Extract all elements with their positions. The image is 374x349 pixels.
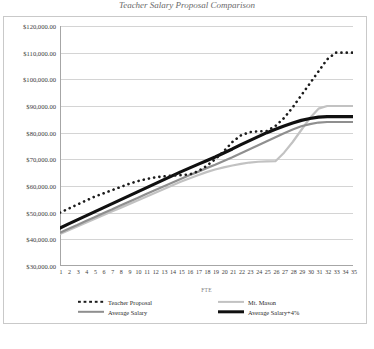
x-axis-tick-label: 4 [85,269,88,275]
y-axis-tick-label: $30,000.00 [26,263,56,270]
x-axis-tick-label: 9 [128,269,131,275]
legend-item-average-salary: Average Salary [78,308,147,316]
chart-frame: $30,000.00$40,000.00$50,000.00$60,000.00… [3,16,367,324]
x-axis-tick-label: 35 [351,269,357,275]
legend-label: Mt. Mason [248,299,276,306]
legend-item-average-salary-plus-4: Average Salary+4% [218,308,299,316]
x-axis-tick-label: 16 [187,269,193,275]
x-axis-tick-label: 11 [144,269,150,275]
y-axis-tick-label: $80,000.00 [26,129,56,136]
x-axis-tick-label: 33 [334,269,340,275]
x-axis-tick-label: 21 [230,269,236,275]
legend-item-mt-mason: Mt. Mason [218,298,276,306]
x-axis-tick-label: 29 [299,269,305,275]
x-axis-tick-label: 17 [196,269,202,275]
series-line [60,53,353,213]
x-axis-tick-label: 7 [111,269,114,275]
x-axis-tick-label: 8 [120,269,123,275]
legend-label: Average Salary [108,309,147,316]
legend-swatch-black-icon [218,308,244,316]
x-axis-tick-label: 3 [77,269,80,275]
x-axis-tick-label: 23 [248,269,254,275]
x-axis-tick-label: 24 [256,269,262,275]
x-axis-tick-label: 20 [222,269,228,275]
x-axis-tick-label: 19 [213,269,219,275]
x-axis-tick-label: 1 [60,269,63,275]
x-axis-tick-label: 10 [136,269,142,275]
chart-legend: Teacher Proposal Mt. Mason Average Salar… [60,298,353,322]
x-axis-tick-label: 12 [153,269,159,275]
chart-title: Teacher Salary Proposal Comparison [0,0,374,13]
legend-label: Teacher Proposal [108,299,152,306]
legend-swatch-lightgray-icon [218,298,244,306]
legend-item-teacher-proposal: Teacher Proposal [78,298,152,306]
x-axis-tick-label: 5 [94,269,97,275]
legend-swatch-gray-icon [78,308,104,316]
x-axis-tick-label: 15 [179,269,185,275]
series-layer [60,26,353,266]
x-axis-tick-label: 34 [342,269,348,275]
x-axis-tick-label: 30 [308,269,314,275]
y-axis-tick-label: $50,000.00 [26,209,56,216]
y-axis-tick-label: $110,000.00 [23,49,56,56]
legend-swatch-dotted-icon [78,298,104,306]
x-axis-tick-label: 27 [282,269,288,275]
x-axis-tick-label: 22 [239,269,245,275]
plot-wrapper: $30,000.00$40,000.00$50,000.00$60,000.00… [4,17,368,325]
x-axis-tick-label: 14 [170,269,176,275]
y-axis-tick-label: $100,000.00 [23,76,56,83]
x-axis-tick-label: 6 [103,269,106,275]
x-axis-tick-label: 25 [265,269,271,275]
x-axis-tick-label: 2 [68,269,71,275]
y-axis-tick-label: $90,000.00 [26,103,56,110]
x-axis-tick-label: 18 [205,269,211,275]
y-axis-tick-label: $60,000.00 [26,183,56,190]
y-axis-tick-label: $70,000.00 [26,156,56,163]
legend-label: Average Salary+4% [248,309,299,316]
y-axis-tick-label: $120,000.00 [23,23,56,30]
x-axis-tick-label: 32 [325,269,331,275]
x-axis-title: FTE [60,287,353,293]
x-axis-tick-label: 31 [317,269,323,275]
x-axis-tick-label: 13 [161,269,167,275]
x-axis-tick-label: 26 [273,269,279,275]
y-axis-tick-label: $40,000.00 [26,236,56,243]
x-axis-tick-label: 28 [291,269,297,275]
